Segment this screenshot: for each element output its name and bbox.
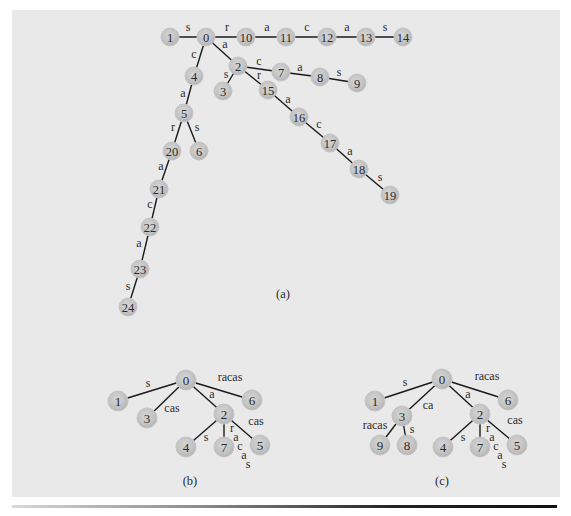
node-label: 16 — [293, 111, 306, 125]
node-label: 2 — [477, 407, 484, 422]
node-label: 17 — [324, 137, 337, 151]
tree-node-5: 5 — [507, 435, 527, 455]
tree-node-19: 19 — [381, 186, 399, 204]
node-label: 7 — [221, 440, 228, 455]
tree-node-13: 13 — [357, 28, 375, 46]
caption-a: (a) — [276, 287, 290, 301]
node-label: 20 — [166, 145, 179, 159]
node-label: 8 — [317, 71, 323, 85]
edge-label: a — [285, 92, 291, 106]
tree-node-5: 5 — [250, 435, 270, 455]
edge-label: cas — [164, 401, 180, 415]
node-label: 19 — [384, 189, 397, 203]
node-label: 3 — [144, 411, 151, 426]
node-label: 12 — [321, 31, 334, 45]
node-label: 22 — [144, 221, 157, 235]
edge-label: a — [209, 387, 215, 401]
node-label: 23 — [134, 263, 147, 277]
edge-label: s — [378, 170, 383, 184]
edge-label: c — [147, 197, 152, 211]
node-label: 13 — [360, 31, 373, 45]
node-label: 9 — [377, 438, 384, 453]
node-label: 5 — [181, 107, 187, 121]
edge-label: c — [304, 20, 309, 34]
node-label: 18 — [353, 163, 366, 177]
node-label: 14 — [397, 31, 410, 45]
node-label: 2 — [221, 407, 228, 422]
suffix-tree-figure: sracascaascasracasrsacas0110111213142345… — [0, 0, 571, 516]
edge-label: s — [126, 279, 131, 293]
edge-label-vertical-char: s — [502, 457, 507, 471]
node-label: 0 — [439, 372, 446, 387]
edge-label: s — [204, 430, 209, 444]
node-label: 6 — [249, 393, 256, 408]
node-label: 1 — [115, 394, 122, 409]
node-label: 9 — [354, 77, 360, 91]
node-label: 1 — [372, 394, 379, 409]
diagram-b-compressed-trie: scasracasascasracas01362475(b) — [108, 370, 270, 488]
edge-label: racas — [363, 418, 388, 432]
node-label: 2 — [235, 60, 241, 74]
node-label: 4 — [440, 440, 447, 455]
tree-node-1: 1 — [161, 28, 179, 46]
tree-node-9: 9 — [348, 74, 366, 92]
tree-node-1: 1 — [108, 391, 128, 411]
edge-label: s — [224, 67, 229, 81]
edge-label: s — [403, 375, 408, 389]
edge-label: a — [264, 20, 270, 34]
tree-node-6: 6 — [190, 142, 208, 160]
node-label: 7 — [477, 440, 484, 455]
edge-label: c — [256, 54, 261, 68]
edge-label: s — [186, 20, 191, 34]
edge-label: r — [171, 120, 175, 134]
edge-label: a — [297, 60, 303, 74]
node-label: 8 — [404, 438, 411, 453]
node-label: 11 — [280, 31, 292, 45]
node-label: 10 — [240, 31, 253, 45]
caption-b: (b) — [183, 474, 198, 488]
node-label: 15 — [262, 84, 275, 98]
node-label: 4 — [191, 70, 198, 84]
tree-node-2: 2 — [214, 404, 234, 424]
edge-label: c — [191, 47, 196, 61]
node-label: 24 — [122, 301, 135, 315]
node-label: 21 — [153, 183, 166, 197]
tree-node-21: 21 — [150, 180, 168, 198]
node-label: 6 — [196, 145, 202, 159]
node-label: 5 — [514, 438, 521, 453]
tree-node-0: 0 — [197, 28, 215, 46]
node-label: 1 — [167, 31, 173, 45]
edge-label: s — [146, 376, 151, 390]
edge-label: r — [225, 20, 229, 34]
node-label: 0 — [203, 31, 209, 45]
tree-node-7: 7 — [470, 437, 490, 457]
nodes: 0136298475 — [365, 369, 527, 457]
edge-label: s — [337, 65, 342, 79]
edge-label: a — [347, 144, 353, 158]
tree-node-2: 2 — [229, 57, 247, 75]
edge-label: racas — [218, 370, 243, 384]
tree-node-6: 6 — [242, 390, 262, 410]
tree-node-8: 8 — [397, 435, 417, 455]
tree-node-18: 18 — [350, 160, 368, 178]
tree-node-17: 17 — [321, 134, 339, 152]
edge-label: a — [180, 86, 186, 100]
edge-label: a — [222, 37, 228, 51]
edge-label: s — [195, 120, 200, 134]
diagram-c-compressed-trie: scaracasaracassscasracas0136298475(c) — [363, 369, 527, 488]
node-label: 3 — [220, 85, 226, 99]
tree-node-3: 3 — [137, 408, 157, 428]
diagram-a-trie: sracascaascasracasrsacas0110111213142345… — [119, 20, 412, 316]
edge-label: cas — [248, 414, 264, 428]
edge-label-vertical-char: s — [246, 457, 251, 471]
caption-c: (c) — [435, 474, 449, 488]
edge-label: s — [410, 422, 415, 436]
edge-label: racas — [475, 369, 500, 383]
edge-label: a — [158, 159, 164, 173]
tree-node-3: 3 — [392, 406, 412, 426]
tree-node-24: 24 — [119, 298, 137, 316]
tree-node-7: 7 — [272, 63, 290, 81]
node-label: 7 — [278, 66, 284, 80]
node-label: 3 — [399, 409, 406, 424]
tree-node-7: 7 — [214, 437, 234, 457]
